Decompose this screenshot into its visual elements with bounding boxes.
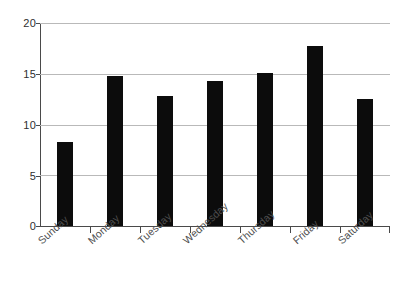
bar-chart-figure: 20 15 10 5 0 [0, 0, 408, 287]
bar-slot-sunday [40, 23, 90, 226]
x-axis-end-cap [389, 226, 390, 233]
bar-friday [307, 46, 323, 226]
bar-slot-tuesday [140, 23, 190, 226]
y-tick-label-0: 0 [10, 221, 36, 232]
bar-slot-saturday [340, 23, 390, 226]
bar-tuesday [157, 96, 173, 226]
gridline-0-baseline [40, 226, 390, 227]
bar-sunday [57, 142, 73, 226]
x-tick-mark-5 [290, 226, 291, 233]
bar-thursday [257, 73, 273, 226]
y-tick-label-5: 5 [10, 171, 36, 182]
bar-monday [107, 76, 123, 226]
bar-slot-monday [90, 23, 140, 226]
bar-slot-wednesday [190, 23, 240, 226]
y-tick-label-15: 15 [10, 69, 36, 80]
plot-area [40, 23, 390, 226]
y-tick-label-20: 20 [10, 18, 36, 29]
bar-saturday [357, 99, 373, 226]
bar-slot-friday [290, 23, 340, 226]
bar-slot-thursday [240, 23, 290, 226]
y-tick-label-10: 10 [10, 120, 36, 131]
